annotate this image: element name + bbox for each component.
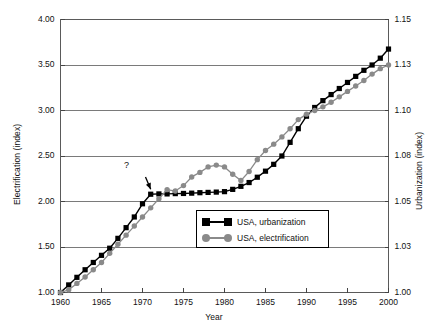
annotation-arrow (146, 177, 151, 189)
chart-figure: Electrification (index) Urbanization (in… (0, 0, 428, 333)
legend-label-urbanization: USA, urbanization (237, 217, 306, 227)
y-axis-left-tick-label: 3.50 (21, 59, 55, 69)
x-axis-title: Year (0, 312, 428, 322)
legend-swatch-circle-icon (202, 232, 232, 244)
y-axis-left-title: Electrification (index) (12, 124, 22, 205)
x-axis-tick-label: 2000 (369, 297, 409, 307)
question-mark-annotation: ? (124, 160, 129, 170)
x-axis-tick-label: 1970 (123, 297, 163, 307)
legend-item-electrification: USA, electrification (202, 230, 324, 246)
x-axis-tick-label: 1990 (287, 297, 327, 307)
x-axis-tick-label: 1980 (205, 297, 245, 307)
y-axis-right-tick-label: 1.08 (395, 150, 428, 160)
x-axis-tick-label: 1985 (246, 297, 286, 307)
data-series (58, 46, 391, 295)
y-axis-left-tick-label: 2.00 (21, 196, 55, 206)
y-axis-right-tick-label: 1.15 (395, 14, 428, 24)
y-axis-left-tick-label: 4.00 (21, 14, 55, 24)
y-axis-right-tick-label: 1.13 (395, 59, 428, 69)
x-axis-tick-label: 1965 (82, 297, 122, 307)
legend-swatch-square-icon (202, 216, 232, 228)
x-axis-tick-label: 1995 (328, 297, 368, 307)
y-axis-left-tick-label: 1.00 (21, 287, 55, 297)
legend-label-electrification: USA, electrification (237, 233, 309, 243)
y-axis-left-tick-label: 2.50 (21, 150, 55, 160)
y-axis-left-tick-label: 3.00 (21, 105, 55, 115)
chart-canvas (0, 0, 428, 333)
y-axis-right-tick-label: 1.10 (395, 105, 428, 115)
x-axis-tick-label: 1960 (41, 297, 81, 307)
y-axis-left-tick-label: 1.50 (21, 241, 55, 251)
y-axis-right-tick-label: 1.05 (395, 196, 428, 206)
y-axis-right-tick-label: 1.00 (395, 287, 428, 297)
x-axis-tick-label: 1975 (164, 297, 204, 307)
chart-legend: USA, urbanization USA, electrification (196, 210, 329, 248)
y-axis-right-tick-label: 1.03 (395, 241, 428, 251)
legend-item-urbanization: USA, urbanization (202, 214, 324, 230)
